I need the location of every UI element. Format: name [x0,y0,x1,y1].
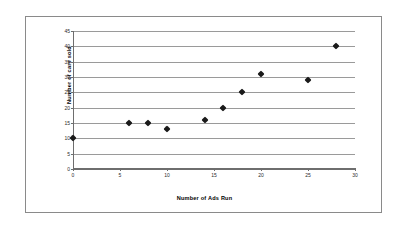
x-tick-label: 15 [211,173,217,178]
x-tick-mark [261,168,262,171]
x-tick-mark [214,168,215,171]
y-tick-mark [71,123,74,124]
y-tick-label: 25 [64,90,70,95]
y-axis-line [73,31,74,169]
chart-frame: Number of cars sold 051015202530354045 0… [25,16,382,213]
y-tick-label: 35 [64,59,70,64]
gridline [73,62,355,63]
gridline [73,46,355,47]
x-tick-label: 10 [164,173,170,178]
x-tick-mark [120,168,121,171]
x-tick-label: 30 [352,173,358,178]
y-tick-label: 40 [64,44,70,49]
y-tick-mark [71,31,74,32]
x-tick-mark [308,168,309,171]
plot-area: 051015202530354045 051015202530 [73,31,355,169]
y-tick-label: 20 [64,105,70,110]
y-tick-mark [71,77,74,78]
y-tick-mark [71,46,74,47]
y-tick-mark [71,154,74,155]
y-tick-label: 30 [64,75,70,80]
y-tick-mark [71,108,74,109]
gridline [73,77,355,78]
y-tick-mark [71,92,74,93]
x-tick-label: 20 [258,173,264,178]
gridline [73,154,355,155]
x-tick-label: 0 [72,173,75,178]
y-tick-label: 15 [64,121,70,126]
x-tick-label: 25 [305,173,311,178]
y-tick-mark [71,62,74,63]
gridline [73,92,355,93]
x-axis-title: Number of Ads Run [26,193,383,203]
gridline [73,138,355,139]
y-tick-label: 45 [64,29,70,34]
x-tick-mark [355,168,356,171]
y-tick-label: 5 [67,151,70,156]
plot-background [73,31,355,169]
x-tick-label: 5 [119,173,122,178]
gridline [73,31,355,32]
gridline [73,123,355,124]
gridline [73,108,355,109]
y-tick-label: 0 [67,167,70,172]
x-tick-mark [167,168,168,171]
x-tick-mark [73,168,74,171]
